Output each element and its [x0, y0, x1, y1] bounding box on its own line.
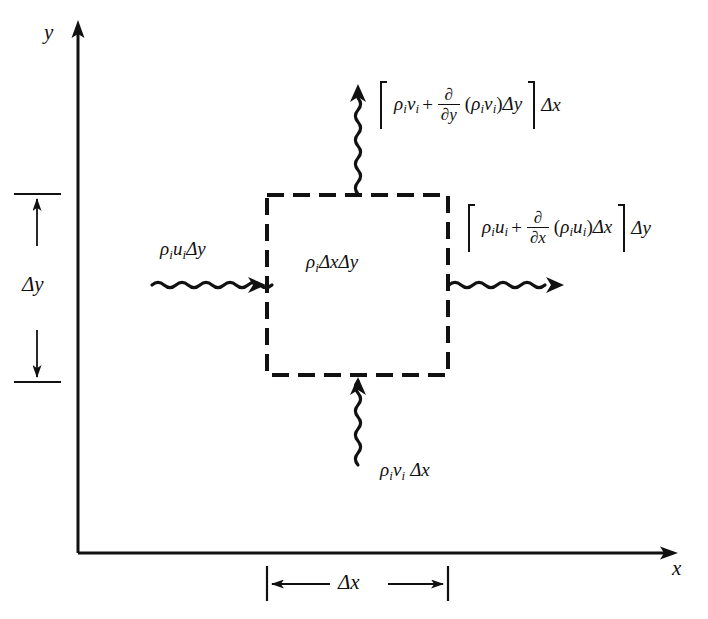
delta-x-label: Δx	[338, 570, 360, 595]
top-paren-velocity: v	[484, 93, 492, 114]
right-paren-group: (ρiui)Δx	[554, 216, 612, 241]
left-velocity: u	[173, 238, 183, 259]
x-axis-label: x	[672, 556, 681, 581]
right-bracket-icon	[618, 204, 627, 252]
right-outflow-expression: ρiui + ∂ ∂x (ρiui)Δx Δy	[466, 204, 651, 252]
top-paren-rho: ρ	[471, 93, 480, 114]
top-velocity: v	[407, 93, 415, 114]
bottom-delta: Δx	[410, 459, 430, 480]
top-outflow-label: ρivi + ∂ ∂y (ρivi)Δy Δx	[378, 81, 561, 133]
right-paren-velocity: u	[573, 216, 583, 237]
bottom-velocity: v	[393, 459, 401, 480]
top-rho: ρ	[394, 93, 403, 114]
top-partial-derivative: ∂ ∂y	[438, 86, 460, 124]
right-deriv-denominator: ∂x	[527, 227, 549, 246]
axis-y	[72, 20, 85, 553]
delta-y-label: Δy	[22, 272, 44, 297]
bottom-velocity-subscript: i	[402, 468, 406, 483]
control-volume-label: ρiΔxΔy	[306, 251, 358, 276]
right-outflow-label: ρiui + ∂ ∂x (ρiui)Δx Δy	[466, 204, 651, 256]
top-outflow-expression: ρivi + ∂ ∂y (ρivi)Δy Δx	[378, 81, 561, 129]
figure-canvas: y x Δy Δx ρiΔxΔy ρiuiΔy ρiviΔx ρivi + ∂ …	[0, 0, 708, 619]
right-inner-delta: Δx	[593, 216, 613, 237]
top-inner-delta: Δy	[503, 93, 523, 114]
top-deriv-numerator: ∂	[442, 86, 456, 104]
right-rho: ρ	[482, 216, 491, 237]
left-delta: Δy	[186, 238, 206, 259]
right-deriv-numerator: ∂	[531, 209, 545, 227]
control-volume-box	[267, 195, 448, 375]
cv-rho: ρ	[306, 251, 315, 272]
right-velocity: u	[495, 216, 505, 237]
top-velocity-subscript: i	[416, 101, 420, 116]
top-paren-group: (ρivi)Δy	[465, 93, 522, 118]
right-outflow-body: ρiui + ∂ ∂x (ρiui)Δx	[475, 204, 618, 252]
right-paren-rho: ρ	[560, 216, 569, 237]
right-bracket-icon	[528, 81, 537, 129]
left-rho: ρ	[160, 238, 169, 259]
left-inflow-arrow	[152, 277, 272, 293]
top-deriv-denominator: ∂y	[438, 104, 460, 123]
left-inflow-label: ρiuiΔy	[160, 238, 206, 263]
right-partial-derivative: ∂ ∂x	[527, 209, 549, 247]
right-outflow-arrow	[449, 277, 564, 293]
left-bracket-icon	[378, 81, 387, 129]
top-plus-sign: +	[422, 94, 433, 116]
y-axis-label: y	[44, 20, 53, 45]
top-outer-delta: Δx	[541, 94, 561, 116]
bottom-inflow-arrow	[350, 377, 366, 465]
figure-vector-layer	[0, 0, 708, 619]
right-velocity-subscript: i	[505, 224, 509, 239]
right-flux-term: ρiui	[482, 216, 508, 241]
cv-volume-term: ΔxΔy	[319, 251, 358, 272]
bottom-rho: ρ	[380, 459, 389, 480]
top-outflow-body: ρivi + ∂ ∂y (ρivi)Δy	[387, 81, 528, 129]
right-plus-sign: +	[511, 217, 522, 239]
left-bracket-icon	[466, 204, 475, 252]
bottom-inflow-label: ρiviΔx	[380, 459, 430, 484]
top-flux-term: ρivi	[394, 93, 419, 118]
axis-x	[78, 547, 678, 560]
top-outflow-arrow	[350, 84, 366, 194]
right-outer-delta: Δy	[631, 217, 651, 239]
